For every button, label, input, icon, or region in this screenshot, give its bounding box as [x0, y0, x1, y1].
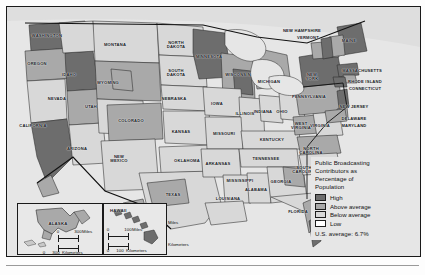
hawaii-km-tick-0: 0: [107, 248, 109, 253]
legend-items: High Above average Below average Low: [315, 194, 415, 227]
legend-swatch-above-average: [315, 203, 326, 210]
map-frame: .st{stroke:#2a2a2a;stroke-width:.55;stro…: [6, 6, 421, 257]
alaska-km-tick-1: 300: [52, 250, 59, 255]
legend-label-high: High: [330, 194, 343, 201]
legend-item-below-average: Below average: [315, 211, 415, 218]
map-page: .st{stroke:#2a2a2a;stroke-width:.55;stro…: [0, 0, 425, 275]
legend-item-low: Low: [315, 220, 415, 227]
hawaii-km-tick-1: 100: [116, 248, 123, 253]
hawaii-km-unit: Kilometers: [126, 248, 147, 253]
legend-swatch-below-average: [315, 211, 326, 218]
alaska-miles-tick-1: 300: [74, 229, 81, 234]
hawaii-miles-tick-1: 100: [124, 227, 131, 232]
legend-item-high: High: [315, 194, 415, 201]
scale-km-unit: Kilometers: [168, 242, 189, 247]
legend-label-low: Low: [330, 220, 341, 227]
alaska-miles-tick-0: 0: [57, 229, 59, 234]
legend-title-line-1: Contributors as: [315, 167, 415, 175]
map-legend: Public Broadcasting Contributors as Perc…: [311, 157, 418, 240]
legend-swatch-low: [315, 220, 326, 227]
legend-title: Public Broadcasting Contributors as Perc…: [315, 159, 415, 191]
hawaii-miles-tick-0: 0: [107, 227, 109, 232]
inset-hawaii: HAWAII 0 100 Miles 0 100 Kilometers: [103, 203, 167, 255]
alaska-km-tick-0: 0: [43, 250, 45, 255]
alaska-km-unit: Kilometers: [62, 250, 83, 255]
scale-miles-unit: Miles: [168, 220, 178, 225]
hawaii-miles-unit: Miles: [132, 227, 142, 232]
legend-title-line-3: Population: [315, 183, 415, 191]
legend-label-below-average: Below average: [330, 211, 370, 218]
alaska-miles-unit: Miles: [82, 229, 92, 234]
legend-swatch-high: [315, 194, 326, 201]
legend-item-above-average: Above average: [315, 203, 415, 210]
legend-title-line-0: Public Broadcasting: [315, 159, 415, 167]
legend-title-line-2: Percentage of: [315, 175, 415, 183]
legend-label-above-average: Above average: [330, 203, 371, 210]
us-average-note: U.S. average: 6.7%: [315, 230, 415, 237]
inset-alaska: ALASKA 0 300 Miles 0 300 Kilometers: [17, 203, 103, 255]
bottom-divider: [6, 265, 419, 266]
